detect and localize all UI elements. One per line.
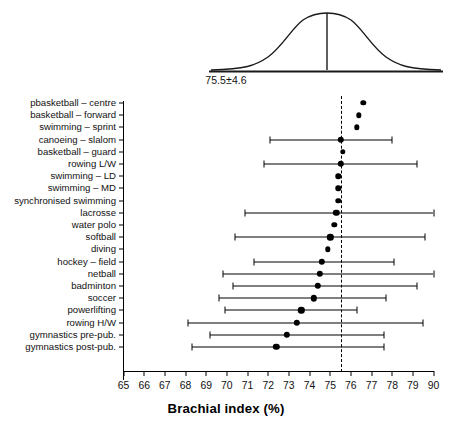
x-axis-tick-label: 69 — [200, 380, 212, 391]
plot-area: 65666768697071727374757677787990 — [0, 92, 452, 392]
x-axis-tick-label: 72 — [262, 380, 274, 391]
error-bar — [270, 139, 392, 140]
x-axis-tick-label: 65 — [118, 380, 130, 391]
x-axis-tick — [206, 371, 207, 376]
data-point — [337, 161, 343, 167]
x-axis-line — [123, 371, 434, 372]
error-bar-cap — [235, 234, 236, 241]
x-axis-tick — [123, 371, 124, 376]
error-bar-cap — [392, 136, 393, 143]
y-axis-tick — [119, 322, 124, 323]
y-axis-tick — [119, 225, 124, 226]
x-axis-tick — [350, 371, 351, 376]
x-axis-tick — [412, 371, 413, 376]
x-axis-tick — [371, 371, 372, 376]
distribution-caption: 75.5±4.6 — [0, 74, 452, 86]
data-point — [273, 344, 279, 350]
data-point — [356, 112, 361, 117]
y-axis-tick — [119, 310, 124, 311]
y-axis-tick — [119, 334, 124, 335]
data-point — [310, 295, 316, 301]
x-axis-tick — [144, 371, 145, 376]
error-bar-cap — [383, 344, 384, 351]
error-bar-cap — [416, 283, 417, 290]
y-axis-tick — [119, 103, 124, 104]
data-point — [325, 247, 330, 252]
data-point — [315, 283, 321, 289]
data-point — [332, 222, 337, 227]
error-bar-cap — [245, 209, 246, 216]
x-axis-tick-label: 90 — [428, 380, 440, 391]
error-bar-cap — [270, 136, 271, 143]
brachial-index-figure: 75.5±4.6 pbasketball – centrebasketball … — [0, 0, 452, 437]
error-bar-cap — [433, 209, 434, 216]
normal-curve-path — [211, 13, 441, 70]
error-bar — [219, 298, 386, 299]
error-bar-cap — [218, 295, 219, 302]
error-bar-cap — [433, 270, 434, 277]
error-bar-cap — [233, 283, 234, 290]
x-axis-tick-label: 79 — [407, 380, 419, 391]
data-point — [361, 100, 366, 105]
error-bar-cap — [416, 161, 417, 168]
x-axis-tick-label: 75 — [324, 380, 336, 391]
y-axis-tick — [119, 212, 124, 213]
error-bar — [192, 347, 384, 348]
error-bar-cap — [425, 234, 426, 241]
y-axis-tick — [119, 115, 124, 116]
x-axis-tick-label: 77 — [366, 380, 378, 391]
x-axis-tick — [247, 371, 248, 376]
error-bar-cap — [222, 270, 223, 277]
error-bar — [225, 310, 357, 311]
y-axis-tick — [119, 298, 124, 299]
x-axis-tick-label: 74 — [304, 380, 316, 391]
error-bar-cap — [224, 307, 225, 314]
y-axis-tick — [119, 127, 124, 128]
error-bar-cap — [385, 295, 386, 302]
data-point — [317, 271, 323, 277]
error-bar — [223, 273, 434, 274]
error-bar-cap — [423, 319, 424, 326]
x-axis-tick — [330, 371, 331, 376]
x-axis-tick — [433, 371, 434, 376]
x-axis-tick — [185, 371, 186, 376]
error-bar — [233, 286, 417, 287]
x-axis-tick-label: 71 — [242, 380, 254, 391]
error-bar — [188, 322, 424, 323]
y-axis-tick — [119, 151, 124, 152]
error-bar — [245, 212, 433, 213]
data-point — [319, 258, 325, 264]
y-axis-tick — [119, 261, 124, 262]
data-point — [340, 149, 345, 154]
x-axis-tick — [288, 371, 289, 376]
data-point — [327, 234, 333, 240]
error-bar — [210, 334, 384, 335]
data-point — [354, 125, 359, 130]
data-point — [284, 332, 290, 338]
x-axis-tick — [392, 371, 393, 376]
x-axis-tick-label: 78 — [386, 380, 398, 391]
x-axis-tick-label: 73 — [283, 380, 295, 391]
x-axis-tick-label: 66 — [138, 380, 150, 391]
x-axis-tick — [226, 371, 227, 376]
y-axis-tick — [119, 249, 124, 250]
data-point — [294, 319, 300, 325]
x-axis-tick — [164, 371, 165, 376]
x-axis-tick-label: 76 — [345, 380, 357, 391]
error-bar-cap — [210, 331, 211, 338]
x-axis-tick-label: 68 — [180, 380, 192, 391]
x-axis-tick-label: 70 — [221, 380, 233, 391]
error-bar-cap — [394, 258, 395, 265]
x-axis-label: Brachial index (%) — [0, 401, 452, 416]
y-axis-tick — [119, 273, 124, 274]
error-bar-cap — [264, 161, 265, 168]
y-axis-tick — [119, 164, 124, 165]
error-bar-cap — [357, 307, 358, 314]
error-bar-cap — [187, 319, 188, 326]
y-axis-tick — [119, 200, 124, 201]
y-axis-tick — [119, 176, 124, 177]
error-bar-cap — [253, 258, 254, 265]
y-axis-tick — [119, 286, 124, 287]
x-axis-tick — [268, 371, 269, 376]
y-axis-tick — [119, 139, 124, 140]
